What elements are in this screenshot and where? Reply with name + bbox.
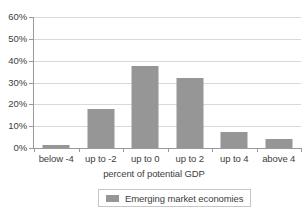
bars-layer	[34, 17, 301, 148]
bar	[265, 139, 292, 148]
y-axis-tick	[29, 39, 33, 40]
x-axis-tick-label: above 4	[257, 153, 302, 164]
x-axis-tick	[123, 148, 124, 152]
bar-slot	[212, 17, 257, 148]
x-axis-title: percent of potential GDP	[0, 168, 308, 179]
bar	[87, 109, 114, 148]
y-axis-tick	[29, 61, 33, 62]
x-axis-tick-label: up to 2	[168, 153, 213, 164]
bar	[221, 132, 248, 148]
bar-slot	[257, 17, 302, 148]
x-axis-tick	[301, 148, 302, 152]
x-axis-tick	[34, 148, 35, 152]
bar-slot	[123, 17, 168, 148]
x-axis-tick-label: below -4	[34, 153, 79, 164]
bar-slot	[168, 17, 213, 148]
bar-slot	[34, 17, 79, 148]
y-axis-tick	[29, 148, 33, 149]
y-axis-tick	[29, 126, 33, 127]
x-axis-tick-label: up to 4	[212, 153, 257, 164]
x-axis-labels: below -4up to -2up to 0up to 2up to 4abo…	[34, 153, 301, 167]
x-axis-tick	[79, 148, 80, 152]
bar	[132, 66, 159, 148]
chart-legend: Emerging market economies	[98, 189, 251, 207]
y-axis-tick	[29, 17, 33, 18]
legend-swatch-icon	[106, 195, 119, 202]
x-axis-tick	[257, 148, 258, 152]
x-axis-tick-label: up to -2	[79, 153, 124, 164]
bar	[43, 145, 70, 148]
bar-chart: 0%10%20%30%40%50%60% below -4up to -2up …	[0, 0, 308, 222]
bar-slot	[79, 17, 124, 148]
y-axis-tick	[29, 83, 33, 84]
x-axis-tick-label: up to 0	[123, 153, 168, 164]
bar	[176, 78, 203, 148]
x-axis-tick	[168, 148, 169, 152]
y-axis-tick	[29, 104, 33, 105]
x-axis-tick	[212, 148, 213, 152]
legend-label: Emerging market economies	[125, 193, 243, 204]
